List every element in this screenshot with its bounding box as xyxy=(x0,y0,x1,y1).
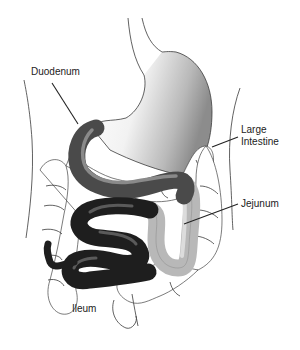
label-duodenum: Duodenum xyxy=(31,66,80,78)
label-ileum: Ileum xyxy=(72,303,96,315)
label-large-intestine: Large Intestine xyxy=(241,124,279,148)
label-jejunum: Jejunum xyxy=(241,198,279,210)
diagram-canvas xyxy=(0,0,300,350)
body-outline-right xyxy=(229,88,240,230)
intestine-diagram: Duodenum Large Intestine Jejunum Ileum xyxy=(0,0,300,350)
leader-large-intestine xyxy=(212,137,238,147)
leader-duodenum xyxy=(52,83,78,124)
body-outline-left xyxy=(24,80,33,238)
